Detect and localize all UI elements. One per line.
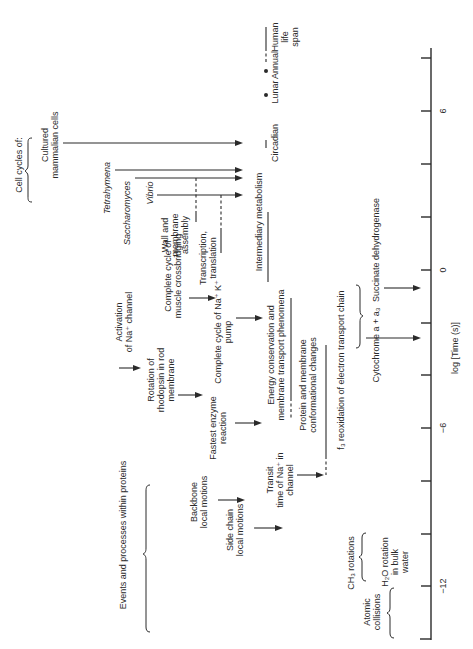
activation-label-line2: of Na⁺ channel [124,292,134,352]
tick-label-minus12: −12 [438,578,448,593]
axis-title: log [Time (s)] [450,322,460,374]
energy-label-line2: membrane transport phenomena [276,289,286,420]
arrow-head-icon [235,175,243,181]
arrow-head-icon [254,420,262,426]
axis-ticks [421,58,431,586]
atomic-label-line2: collisions [372,593,382,630]
pump-label-line2: pump [223,321,233,344]
cell-cycles-label: Cell cycles of: [14,137,24,193]
arrow-head-icon [255,315,263,321]
pump-label-line1: Complete cycle of Na⁺ K⁺ [213,280,223,384]
transit-label-line3: channel [285,464,295,496]
transcription-label-line1: Transcription, [198,231,208,285]
transit-label-line2: time of Na⁺ in [275,452,285,507]
energy-label-line1: Energy conservation and [266,305,276,405]
lunar-dot-icon [264,93,268,97]
ch3-brace [359,533,366,581]
transcription-label-line2: translation [208,237,218,279]
human-label-line3: span [290,27,300,47]
succinate-label: Succinate dehydrogenase [371,198,381,302]
atomic-label-line1: Atomic [362,598,372,626]
arrow-head-icon [133,365,141,371]
biological-rhythms: Circadian Lunar Annual Human life span [264,22,300,162]
rhodopsin-label-line2: rhodopsin in rod [156,348,166,413]
annual-label: Annual [270,51,280,79]
proteins-group-label-line: Events and processes within proteins [118,460,128,609]
h2o-label-line2: in bulk [390,548,400,575]
protein-conf-label-line1: Protein and membrane [298,339,308,431]
electron-transport-label: f₃ reoxidation of electron transport cha… [336,290,346,449]
atomic-brace [387,588,394,638]
rhodopsin-label-line1: Rotation of [146,358,156,402]
ch3-label: CH₃ rotations [346,536,356,590]
tick-label-minus6: −6 [438,423,448,433]
sidechain-label-line2: local motions [235,503,245,556]
cultured-label-line1: Cultured [40,128,50,162]
cultured-label-line2: mammalian cells [50,111,60,179]
electron-transport: f₃ reoxidation of electron transport cha… [336,198,421,450]
arrow-head-icon [235,140,243,146]
human-label-line1: Human [270,22,280,51]
arrow-head-icon [237,497,245,503]
backbone-label-line1: Backbone [189,482,199,522]
arrow-head-icon [235,192,243,198]
protein-conf-label-line2: conformational changes [308,337,318,433]
muscle-label-line2: muscle crossbridging [173,234,183,319]
muscle-label-line1: Complete cycle of [163,240,173,312]
molecular-motions: CH₃ rotations H₂O rotation in bulk water… [346,533,410,638]
arrow-head-icon [316,472,324,478]
annual-dot-icon [264,69,268,73]
lunar-label: Lunar [270,80,280,103]
arrow-head-icon [235,167,243,173]
vibrio-label: Vibrio [145,182,155,205]
saccharomyces-label: Saccharomyces [122,180,132,245]
enzyme-label-line2: reaction [218,412,228,444]
tetrahymena-label: Tetrahymena [102,162,112,214]
arrow-head-icon [275,525,283,531]
timescale-diagram: 6 0 −6 −12 log [Time (s)] Cell cycles of… [0,0,473,649]
cell-cycles-brace [25,138,32,202]
electron-brace [356,285,363,348]
sidechain-label-line1: Side chain [225,509,235,551]
h2o-label-line3: water [400,551,410,574]
rhodopsin-label-line3: membrane [166,358,176,401]
arrow-head-icon [413,335,421,341]
time-axis: 6 0 −6 −12 log [Time (s)] [420,48,460,640]
tick-label-0: 0 [438,267,448,272]
tick-label-6: 6 [438,108,448,113]
human-label-line2: life [280,31,290,43]
arrow-head-icon [195,392,203,398]
transit-label-line1: Transit [265,466,275,494]
intermediary-label: Intermediary metabolism [254,173,264,272]
protein-events-group: Events and processes within proteins Bac… [118,452,324,632]
circadian-label: Circadian [270,124,280,162]
cytochrome-label: Cytochrome a + a₃ [371,307,381,382]
activation-label-line1: Activation [114,302,124,341]
h2o-label-line1: H₂O rotation [380,537,390,587]
arrow-head-icon [413,285,421,291]
backbone-label-line2: local motions [199,475,209,528]
cellular-processes: Wall and membrane assembly Transcription… [114,173,326,475]
enzyme-label-line1: Fastest enzyme [208,396,218,460]
proteins-brace [143,485,150,632]
cell-cycles-group: Cell cycles of: Cultured mammalian cells… [14,111,243,245]
